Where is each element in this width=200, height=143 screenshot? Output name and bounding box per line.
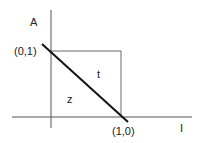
y-axis-label: A xyxy=(30,16,38,28)
x-axis-label: I xyxy=(180,122,183,134)
region-z-label: z xyxy=(67,93,73,105)
point-top-label: (0,1) xyxy=(14,45,37,57)
region-t-label: t xyxy=(97,68,100,80)
diagram: A I (0,1) (1,0) t z xyxy=(0,0,200,143)
diagonal-line xyxy=(42,44,128,122)
point-right-label: (1,0) xyxy=(112,125,135,137)
